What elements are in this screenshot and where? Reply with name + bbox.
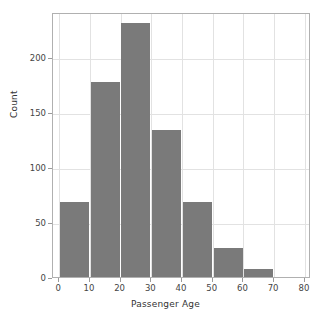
- x-axis-tick-label: 80: [289, 284, 319, 293]
- x-axis-tick-label: 60: [227, 284, 257, 293]
- gridline-vertical: [243, 14, 244, 277]
- y-axis-title: Count: [9, 90, 19, 118]
- x-axis-tick: [273, 278, 274, 282]
- x-axis-tick-label: 10: [74, 284, 104, 293]
- x-axis-tick-label: 40: [166, 284, 196, 293]
- y-axis-tick: [48, 113, 52, 114]
- x-axis-tick-label: 50: [197, 284, 227, 293]
- x-axis-tick-label: 20: [105, 284, 135, 293]
- x-axis-tick: [89, 278, 90, 282]
- y-axis-tick-label: 100: [30, 164, 46, 173]
- x-axis-tick: [58, 278, 59, 282]
- gridline-vertical: [305, 14, 306, 277]
- histogram-bar: [244, 269, 273, 277]
- y-axis-tick-label: 50: [35, 219, 46, 228]
- gridline-horizontal: [53, 59, 309, 60]
- x-axis-tick-label: 0: [43, 284, 73, 293]
- x-axis-tick: [181, 278, 182, 282]
- histogram-bar: [152, 130, 181, 277]
- x-axis-tick: [150, 278, 151, 282]
- x-axis-title: Passenger Age: [0, 299, 331, 309]
- x-axis-tick-label: 70: [258, 284, 288, 293]
- x-axis-tick: [212, 278, 213, 282]
- y-axis-tick: [48, 223, 52, 224]
- x-axis-tick: [304, 278, 305, 282]
- y-axis-tick: [48, 278, 52, 279]
- histogram-bar: [60, 202, 89, 277]
- x-axis-tick: [242, 278, 243, 282]
- histogram-figure: Count Passenger Age 05010015020001020304…: [0, 0, 331, 324]
- x-axis-tick-label: 30: [135, 284, 165, 293]
- gridline-vertical: [213, 14, 214, 277]
- histogram-bar: [91, 82, 120, 277]
- gridline-vertical: [274, 14, 275, 277]
- x-axis-tick: [120, 278, 121, 282]
- y-axis-tick: [48, 58, 52, 59]
- y-axis-tick-label: 0: [41, 274, 46, 283]
- histogram-bar: [121, 23, 150, 277]
- plot-area: [52, 13, 310, 278]
- histogram-bar: [214, 248, 243, 277]
- histogram-bar: [183, 202, 212, 277]
- y-axis-tick-label: 200: [30, 54, 46, 63]
- y-axis-tick: [48, 168, 52, 169]
- y-axis-tick-label: 150: [30, 109, 46, 118]
